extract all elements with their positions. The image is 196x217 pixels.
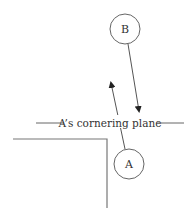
node-a: A — [114, 149, 144, 179]
node-a-label: A — [124, 158, 134, 171]
node-b-label: B — [121, 23, 129, 36]
corner-wall — [13, 139, 107, 208]
path-b-arrow — [128, 44, 139, 111]
cornering-plane: A’s cornering plane — [36, 115, 184, 129]
node-b: B — [110, 14, 140, 44]
plane-label: A’s cornering plane — [58, 117, 162, 129]
cornering-diagram: B A’s cornering plane A — [0, 0, 196, 217]
